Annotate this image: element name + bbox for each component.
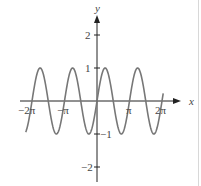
- sine-graph: x y 2 1 −1 −2 −2π −π π 2π: [0, 0, 201, 186]
- y-axis-label: y: [94, 2, 100, 14]
- x-tick-label: −2π: [18, 104, 36, 116]
- x-axis-label: x: [188, 95, 194, 107]
- y-tick-label: 2: [85, 29, 91, 41]
- x-tick-label: −π: [57, 104, 69, 116]
- x-tick-label: π: [126, 104, 132, 116]
- y-tick-label: 1: [85, 62, 91, 74]
- y-tick-label: −1: [100, 128, 112, 140]
- x-tick-label: 2π: [155, 104, 167, 116]
- y-axis-arrow-icon: [94, 15, 100, 23]
- frame-edge: [198, 0, 199, 186]
- y-tick-label: −2: [81, 161, 93, 173]
- x-axis-arrow-icon: [173, 98, 181, 104]
